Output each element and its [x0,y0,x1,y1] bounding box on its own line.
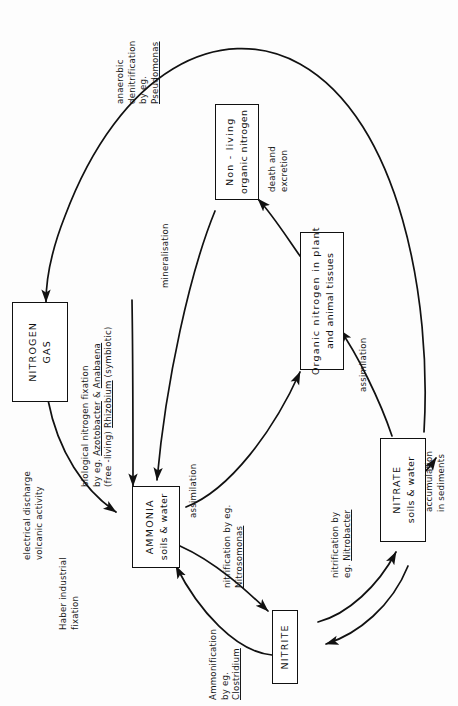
label-ammonification-clostridium: Ammonification by eg. Clostridium [208,629,243,700]
label-biological-nitrogen-fixation: biological nitrogen fixation by eg. Azot… [80,326,115,487]
node-organic-nitrogen-tissues[interactable]: Organic nitrogen in plant and animal tis… [300,232,344,370]
arrow-assimilation-ammonia [186,372,300,507]
node-ammonia-label: AMMONIA soils & water [142,494,170,561]
label-assimilation-ammonia: assimilation [188,464,200,518]
arrow-death-excretion [258,199,300,256]
nitrogen-cycle-diagram: NITROGEN GAS Non - living organic nitrog… [0,0,458,706]
arrow-bio-fixation [132,300,133,486]
label-accumulation-in-sediments: accumulation in sediments [424,451,447,512]
node-nitrite-label: NITRITE [278,624,292,669]
node-nitrate-label: NITRATE soils & water [389,457,417,524]
label-anaerobic-denitrification: anaerobic denitrification by eg. Pseudom… [115,41,161,104]
node-nitrite[interactable]: NITRITE [272,610,298,684]
label-mineralisation: mineralisation [160,223,172,288]
label-death-and-excretion: death and excretion [267,146,290,192]
label-haber-fixation: Haber industrial fixation [58,557,81,630]
node-ammonia[interactable]: AMMONIA soils & water [132,486,180,568]
node-nitrate[interactable]: NITRATE soils & water [380,438,426,542]
label-electrical-discharge: electrical discharge volcanic activity [22,471,45,560]
node-non-living-organic-nitrogen[interactable]: Non - living organic nitrogen [215,104,259,200]
node-non-living-organic-nitrogen-label: Non - living organic nitrogen [223,110,251,195]
node-organic-nitrogen-tissues-label: Organic nitrogen in plant and animal tis… [308,227,336,376]
label-nitrification-nitrosomonas: nitrification by eg. Nitrosomonas [222,505,245,588]
label-nitrification-nitrobacter: nitrification by eg. Nitrobacter [330,510,353,578]
node-nitrogen-gas-label: NITROGEN GAS [26,322,54,382]
node-nitrogen-gas[interactable]: NITROGEN GAS [12,302,68,402]
label-assimilation-nitrate: assimilation [358,338,370,392]
